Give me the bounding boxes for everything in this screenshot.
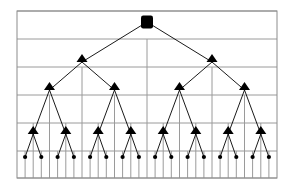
- binary-tree-diagram: [0, 0, 292, 190]
- leaf-node-dot: [153, 155, 157, 159]
- leaf-node-dot: [72, 155, 76, 159]
- leaf-node-dot: [104, 155, 108, 159]
- leaf-node-dot: [121, 155, 125, 159]
- leaf-node-dot: [137, 155, 141, 159]
- leaf-node-dot: [234, 155, 238, 159]
- leaf-node-dot: [23, 155, 27, 159]
- leaf-node-dot: [56, 155, 60, 159]
- figure-container: [0, 0, 292, 190]
- leaf-node-dot: [267, 155, 271, 159]
- leaf-node-dot: [88, 155, 92, 159]
- leaf-node-dot: [202, 155, 206, 159]
- root-node-shape: [141, 16, 153, 29]
- leaf-node-dot: [39, 155, 43, 159]
- leaf-node-dot: [186, 155, 190, 159]
- root-node: [141, 16, 153, 29]
- leaf-node-dot: [218, 155, 222, 159]
- leaf-node-dot: [251, 155, 255, 159]
- leaf-node-dot: [169, 155, 173, 159]
